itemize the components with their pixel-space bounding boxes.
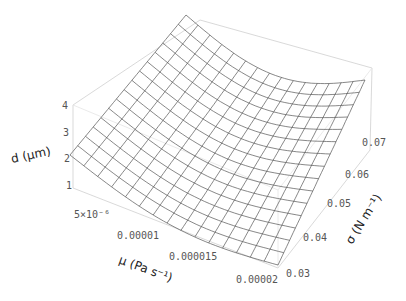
mesh-line bbox=[84, 25, 198, 166]
mesh-line bbox=[186, 15, 365, 84]
mesh-line bbox=[116, 99, 312, 191]
y-tick: 0.07 bbox=[362, 137, 386, 148]
z-axis-label: d (μm) bbox=[10, 144, 52, 166]
z-tick: 4 bbox=[62, 100, 68, 111]
mesh-line bbox=[178, 24, 359, 95]
x-tick: 0.00001 bbox=[117, 230, 159, 241]
y-tick: 0.03 bbox=[286, 268, 310, 279]
mesh-line bbox=[181, 78, 282, 231]
z-tick: 2 bbox=[64, 153, 70, 164]
x-axis-label: μ (Pa s⁻¹) bbox=[117, 253, 174, 285]
mesh-line bbox=[70, 15, 186, 155]
y-tick: 0.04 bbox=[303, 232, 327, 243]
y-axis: 0.03 0.04 0.05 0.06 0.07 σ (N m⁻¹) bbox=[286, 137, 386, 279]
x-axis: 5×10⁻⁶ 0.00001 0.000015 0.00002 μ (Pa s⁻… bbox=[74, 209, 278, 285]
z-tick: 3 bbox=[63, 127, 69, 138]
y-tick: 0.06 bbox=[345, 169, 369, 180]
surface-mesh bbox=[70, 15, 365, 265]
surface-plot: 4 3 2 1 d (μm) 5×10⁻⁶ 0.00001 0.000015 0… bbox=[0, 0, 406, 301]
mesh-line bbox=[93, 127, 295, 228]
y-tick: 0.05 bbox=[327, 198, 351, 209]
mesh-line bbox=[155, 52, 342, 129]
mesh-line bbox=[140, 71, 331, 154]
x-tick: 5×10⁻⁶ bbox=[74, 209, 110, 220]
mesh-line bbox=[223, 84, 318, 249]
z-tick: 1 bbox=[66, 180, 72, 191]
x-tick: 0.00002 bbox=[236, 274, 278, 285]
z-axis: 4 3 2 1 d (μm) bbox=[10, 100, 72, 191]
x-tick: 0.000015 bbox=[169, 251, 217, 262]
mesh-line bbox=[236, 84, 329, 253]
mesh-line bbox=[195, 81, 294, 237]
